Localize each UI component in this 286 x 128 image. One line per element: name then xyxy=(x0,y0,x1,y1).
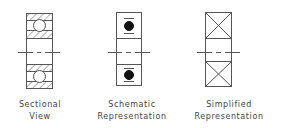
simplified-representation-drawing xyxy=(197,13,240,87)
caption-line-1: Schematic xyxy=(87,99,177,111)
schematic-representation-drawing xyxy=(108,13,150,86)
caption-line-1: Sectional xyxy=(0,99,85,111)
caption-simplified-representation: Simplified Representation xyxy=(184,99,274,123)
caption-line-2: Representation xyxy=(87,111,177,123)
caption-sectional-view: Sectional View xyxy=(0,99,85,123)
sectional-view-drawing xyxy=(18,14,60,89)
caption-line-2: Representation xyxy=(184,111,274,123)
caption-schematic-representation: Schematic Representation xyxy=(87,99,177,123)
caption-line-2: View xyxy=(0,111,85,123)
caption-line-1: Simplified xyxy=(184,99,274,111)
